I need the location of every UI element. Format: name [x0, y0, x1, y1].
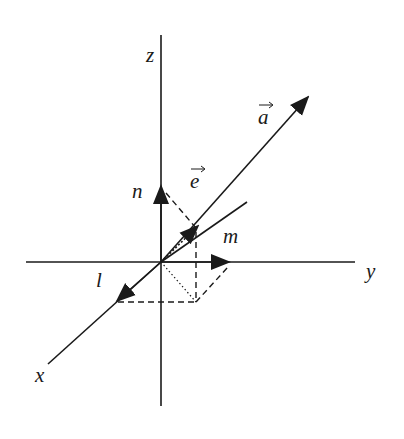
diagram-canvas: z y x a e n m l [0, 0, 404, 439]
l-component-arrow [117, 262, 161, 301]
m-label: m [223, 224, 238, 248]
projection-dotted-line [161, 262, 196, 302]
svg-text:e: e [190, 169, 199, 193]
x-axis-label: x [34, 363, 45, 387]
z-axis-label: z [145, 43, 154, 67]
y-axis-label: y [364, 259, 376, 283]
vector-a-label: a [258, 102, 273, 129]
n-label: n [132, 179, 143, 203]
vector-e-label: e [190, 166, 205, 193]
svg-text:a: a [258, 105, 269, 129]
l-label: l [96, 268, 102, 292]
